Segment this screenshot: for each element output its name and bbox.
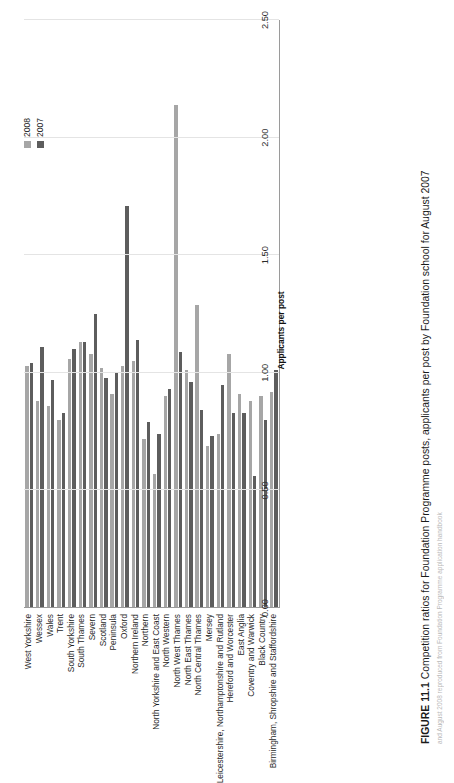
category-label: Northern — [141, 614, 150, 646]
gridline-2.50 — [24, 19, 279, 20]
bar-groups: West YorkshireWessexWalesTrentSouth York… — [24, 20, 279, 608]
bar-2008 — [110, 394, 113, 608]
category-label: Leicestershire, Northamptonshire and Rut… — [216, 614, 225, 783]
bar-group: Trent — [56, 20, 67, 608]
bar-2007 — [253, 476, 256, 608]
category-label: South Yorkshire — [67, 614, 76, 672]
category-label: East Anglia — [237, 614, 246, 656]
bar-2007 — [30, 363, 33, 608]
x-tick-label: 2.00 — [260, 129, 270, 147]
bar-group: Northern — [141, 20, 152, 608]
category-label: Wales — [46, 614, 55, 637]
bar-2007 — [51, 380, 54, 608]
bar-2007 — [72, 349, 75, 608]
bar-group: North East Thames — [183, 20, 194, 608]
bar-2008 — [121, 366, 124, 608]
bar-2008 — [217, 434, 220, 608]
bar-2008 — [89, 354, 92, 608]
category-label: South Thames — [77, 614, 86, 668]
bar-2008 — [36, 401, 39, 608]
figure-caption: FIGURE 11.1 Competition ratios for Found… — [419, 14, 444, 744]
bar-2008 — [270, 392, 273, 608]
legend-swatch-icon — [24, 141, 31, 148]
category-label: Birmingham, Shropshire and Staffordshire — [269, 614, 278, 768]
bar-group: North West Thames — [173, 20, 184, 608]
bar-group: Peninsula — [109, 20, 120, 608]
bar-2007 — [147, 422, 150, 608]
bar-2007 — [232, 413, 235, 608]
chart-legend: 20082007 — [22, 118, 45, 148]
category-label: North East Thames — [184, 614, 193, 685]
gridline-1.00 — [24, 372, 279, 373]
bar-2007 — [200, 410, 203, 608]
bar-group: Leicestershire, Northamptonshire and Rut… — [215, 20, 226, 608]
figure-caption-text: Competition ratios for Foundation Progra… — [420, 170, 431, 679]
bar-2007 — [136, 340, 139, 608]
bar-group: South Yorkshire — [67, 20, 78, 608]
bar-2008 — [100, 368, 103, 608]
bar-group: Hereford and Worcester — [226, 20, 237, 608]
bar-2008 — [57, 420, 60, 608]
bar-2007 — [115, 373, 118, 608]
bar-2007 — [40, 347, 43, 608]
bar-group: Scotland — [98, 20, 109, 608]
x-tick-label: 2.50 — [260, 11, 270, 29]
bar-2008 — [25, 366, 28, 608]
bar-2008 — [227, 354, 230, 608]
bar-group: Coventry and Warwick — [247, 20, 258, 608]
bar-group: Black Country — [258, 20, 269, 608]
bar-2007 — [168, 389, 171, 608]
bar-group: Mersey — [205, 20, 216, 608]
bar-2007 — [94, 314, 97, 608]
bar-2007 — [157, 434, 160, 608]
bar-2008 — [153, 474, 156, 608]
gridline-2.00 — [24, 137, 279, 138]
x-tick-label: 1.00 — [260, 364, 270, 382]
bar-group: Oxford — [120, 20, 131, 608]
bar-group: South Thames — [77, 20, 88, 608]
gridline-0.50 — [24, 489, 279, 490]
bar-2007 — [189, 382, 192, 608]
bar-2008 — [79, 342, 82, 608]
category-label: Severn — [88, 614, 97, 640]
bar-group: Severn — [88, 20, 99, 608]
bar-2007 — [264, 420, 267, 608]
bar-2007 — [179, 352, 182, 608]
category-label: Hereford and Worcester — [226, 614, 235, 702]
category-label: Scotland — [99, 614, 108, 646]
category-label: North West Thames — [173, 614, 182, 687]
bar-2007 — [83, 342, 86, 608]
bar-2008 — [195, 305, 198, 608]
category-label: North Yorkshire and East Coast — [152, 614, 161, 730]
bar-2007 — [221, 385, 224, 608]
x-tick-label: 1.50 — [260, 246, 270, 264]
legend-label: 2007 — [35, 118, 45, 137]
bar-2008 — [47, 406, 50, 608]
bar-2007 — [62, 413, 65, 608]
category-label: Black Country — [258, 614, 267, 666]
bar-2007 — [242, 413, 245, 608]
x-tick-label: 0.50 — [260, 481, 270, 499]
figure-source-note: and August 2008 reproduced from Foundati… — [436, 14, 444, 744]
x-axis-title: Applicants per post — [276, 291, 286, 369]
category-label: North Central Thames — [194, 614, 203, 695]
legend-item: 2008 — [22, 118, 32, 148]
bar-2008 — [238, 394, 241, 608]
legend-item: 2007 — [35, 118, 45, 148]
bar-2008 — [259, 396, 262, 608]
bar-group: Wales — [45, 20, 56, 608]
legend-label: 2008 — [22, 118, 32, 137]
bar-group: Wessex — [35, 20, 46, 608]
bar-2008 — [174, 105, 177, 608]
category-label: Wessex — [35, 614, 44, 643]
bar-group: East Anglia — [237, 20, 248, 608]
legend-swatch-icon — [37, 141, 44, 148]
plot-area: West YorkshireWessexWalesTrentSouth York… — [24, 20, 280, 608]
category-label: Trent — [56, 614, 65, 633]
gridline-0.00 — [24, 607, 279, 608]
bar-2007 — [125, 206, 128, 608]
bar-2008 — [249, 401, 252, 608]
bar-chart: West YorkshireWessexWalesTrentSouth York… — [0, 0, 400, 756]
bar-group: North Western — [162, 20, 173, 608]
